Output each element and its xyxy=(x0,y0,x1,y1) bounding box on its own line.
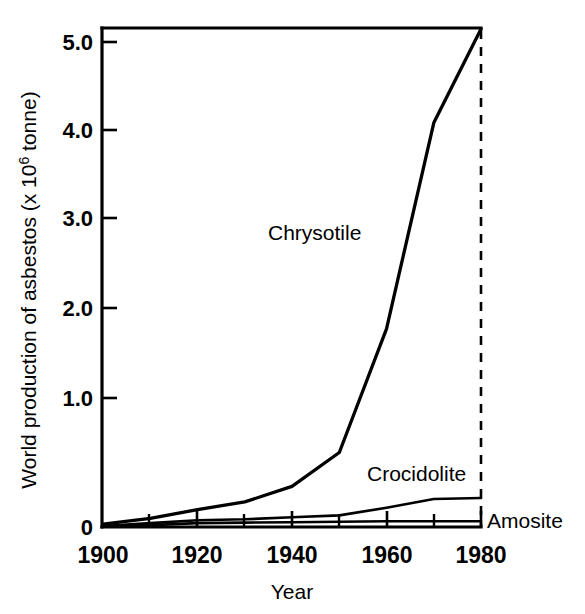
y-axis-title: World production of asbestos (x 106 tonn… xyxy=(16,91,40,488)
series-label-crocidolite: Crocidolite xyxy=(367,462,466,485)
x-tick-label-1960: 1960 xyxy=(361,542,412,568)
series-label-chrysotile: Chrysotile xyxy=(268,221,361,244)
y-tick-label-1: 1.0 xyxy=(62,386,93,411)
y-tick-label-5: 5.0 xyxy=(62,30,93,55)
x-tick-label-1900: 1900 xyxy=(77,542,128,568)
x-tick-labels: 1900 1920 1940 1960 1980 xyxy=(77,542,506,568)
y-axis-title-main: World production of asbestos (x 10 xyxy=(17,165,40,489)
x-axis-title: Year xyxy=(271,580,313,603)
y-tick-label-0: 0 xyxy=(81,515,93,540)
y-tick-labels: 5.0 4.0 3.0 2.0 1.0 0 xyxy=(62,30,93,540)
chart-canvas: 5.0 4.0 3.0 2.0 1.0 0 1900 1920 1940 196… xyxy=(0,0,585,614)
x-tick-label-1940: 1940 xyxy=(266,542,317,568)
y-axis-title-group: World production of asbestos (x 106 tonn… xyxy=(16,91,40,488)
y-tick-label-4: 4.0 xyxy=(62,118,93,143)
y-axis-title-exponent: 6 xyxy=(16,157,32,165)
y-axis-ticks xyxy=(102,42,117,398)
series-line-chrysotile xyxy=(103,29,481,524)
x-tick-label-1920: 1920 xyxy=(171,542,222,568)
x-tick-label-1980: 1980 xyxy=(455,542,506,568)
plot-axes xyxy=(102,28,481,527)
y-tick-label-2: 2.0 xyxy=(62,296,93,321)
series-label-amosite: Amosite xyxy=(487,509,563,532)
y-tick-label-3: 3.0 xyxy=(62,206,93,231)
asbestos-production-figure: 5.0 4.0 3.0 2.0 1.0 0 1900 1920 1940 196… xyxy=(0,0,585,614)
y-axis-title-tail: tonne) xyxy=(17,91,40,156)
